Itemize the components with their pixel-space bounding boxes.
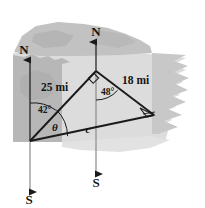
- diagram-canvas: N S N S 25 mi 18 mi c 42° 48° θ: [0, 0, 205, 208]
- angle-48-label: 48°: [101, 87, 115, 97]
- compass-left-north-label: N: [19, 42, 29, 57]
- compass-center-south-label: S: [92, 175, 99, 190]
- side-a-length-label: 25 mi: [41, 81, 69, 93]
- compass-center-north-label: N: [91, 24, 101, 39]
- angle-42-label: 42°: [38, 105, 52, 115]
- side-c-length-label: c: [86, 123, 91, 135]
- angle-theta-label: θ: [52, 121, 58, 133]
- side-b-length-label: 18 mi: [122, 74, 150, 86]
- bearing-triangle-figure: N S N S 25 mi 18 mi c 42° 48° θ: [0, 0, 205, 208]
- compass-left-south-label: S: [25, 192, 32, 207]
